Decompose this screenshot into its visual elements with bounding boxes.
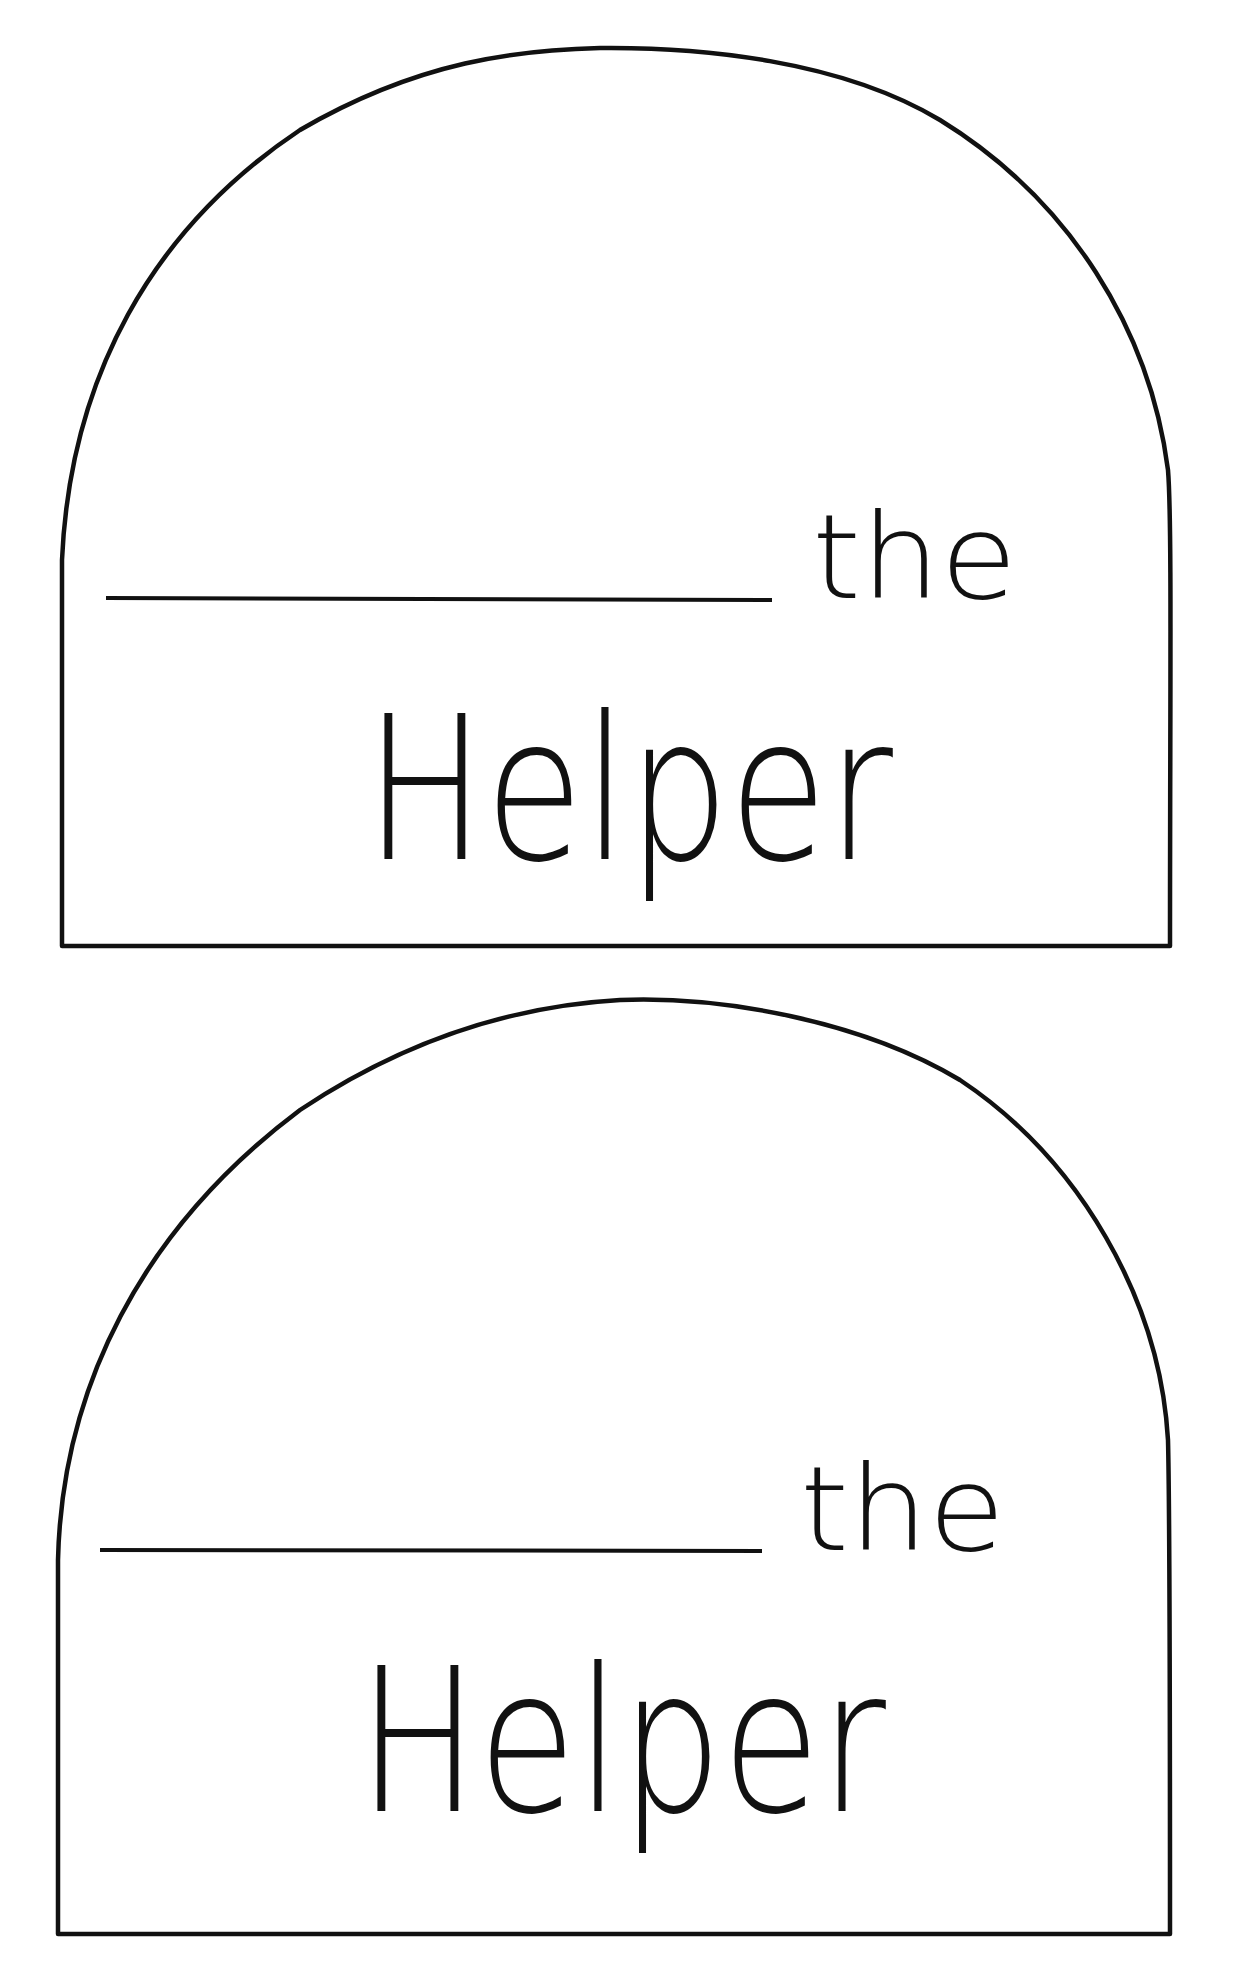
helper-card-1: the Helper [62,48,1171,946]
name-blank-line-2[interactable] [100,1550,762,1551]
word-helper-2: Helper [358,1625,887,1858]
word-the-1: the [812,488,1017,626]
name-blank-line-1[interactable] [106,598,772,600]
helper-card-2: the Helper [58,1000,1170,1934]
cutout-cards: the Helper the Helper [0,0,1245,1976]
worksheet-page: the Helper the Helper [0,0,1245,1976]
word-helper-1: Helper [365,673,894,906]
word-the-2: the [800,1440,1005,1578]
